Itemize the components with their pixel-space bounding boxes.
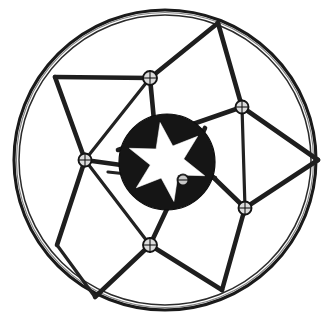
spoke-chord-b xyxy=(218,23,318,160)
nipple-upper-right xyxy=(236,100,249,115)
nipple-top xyxy=(143,70,157,86)
wheel-figure: Spoked wheel engraving Hub with star cut… xyxy=(0,0,330,314)
spoke-chord-d xyxy=(95,245,222,297)
nipple-inner xyxy=(178,175,189,186)
wheel-drawing xyxy=(0,0,330,314)
nipple-lower-left xyxy=(79,153,92,168)
hub-group xyxy=(119,114,215,210)
nipple-bottom xyxy=(143,237,157,253)
nipple-lower-right xyxy=(239,201,252,216)
spoke-chord-c xyxy=(222,160,318,290)
spoke-chord-a xyxy=(55,23,218,78)
link-upperright-to-lowerright xyxy=(242,107,245,208)
